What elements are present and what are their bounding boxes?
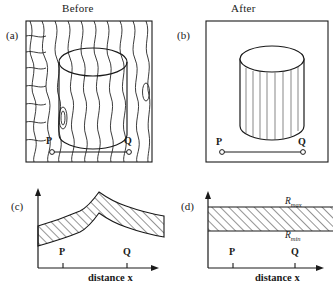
panel-d-marker-p: P — [229, 246, 235, 257]
panel-c-chart — [0, 180, 167, 292]
panel-c-marker-q: Q — [123, 246, 131, 257]
panel-d-marker-q: Q — [291, 246, 299, 257]
panel-a-marker-q: Q — [124, 135, 132, 146]
panel-b-marker-p: P — [216, 136, 222, 147]
panel-d-hatched-band — [208, 207, 333, 231]
rmin-subscript: min — [291, 235, 301, 242]
panel-d: (d) Rma — [167, 180, 334, 292]
figure-root: Before (a) — [0, 0, 334, 292]
panel-d-xlabel: distance x — [255, 272, 300, 283]
panel-c-marker-p: P — [59, 246, 65, 257]
panel-b: After (b) — [167, 0, 334, 180]
panel-d-rmax-label: Rmax — [285, 196, 302, 208]
panel-b-drawing — [167, 0, 334, 180]
panel-a: Before (a) — [0, 0, 167, 180]
panel-c-x-axis — [38, 263, 159, 271]
rmax-subscript: max — [291, 201, 302, 208]
cylinder-b — [240, 46, 304, 140]
panel-c-xlabel: distance x — [88, 272, 133, 283]
panel-a-drawing — [0, 0, 167, 180]
panel-d-rmin-label: Rmin — [285, 230, 301, 242]
panel-b-marker-q: Q — [298, 136, 306, 147]
panel-d-x-axis — [208, 263, 324, 271]
panel-a-frame — [26, 21, 152, 162]
panel-a-marker-p: P — [46, 135, 52, 146]
panel-c: (c) P Q distance x — [0, 180, 167, 292]
panel-d-chart — [167, 180, 334, 292]
panel-c-hatched-band — [38, 192, 164, 246]
